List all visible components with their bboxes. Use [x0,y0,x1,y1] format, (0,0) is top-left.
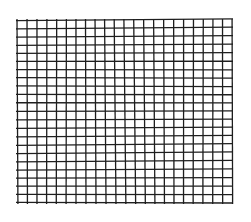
grid-figure [0,0,251,222]
horizontal-grid-line [16,178,233,179]
horizontal-grid-line [16,86,233,87]
horizontal-grid-line [16,53,233,54]
horizontal-grid-line [16,78,233,79]
horizontal-grid-line [16,202,233,203]
horizontal-grid-line [16,119,233,120]
